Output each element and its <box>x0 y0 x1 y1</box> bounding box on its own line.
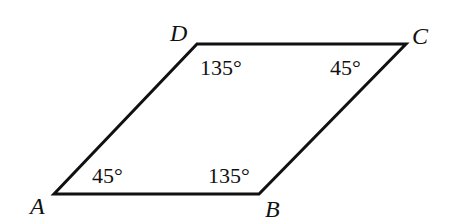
parallelogram-diagram: A B C D 45° 135° 45° 135° <box>0 0 450 224</box>
angle-label-b: 135° <box>208 163 250 188</box>
vertex-label-a: A <box>28 193 45 219</box>
angle-label-c: 45° <box>330 55 361 80</box>
angle-label-a: 45° <box>92 163 123 188</box>
vertex-label-d: D <box>169 20 187 46</box>
angle-label-d: 135° <box>200 55 242 80</box>
vertex-label-c: C <box>412 23 429 49</box>
vertex-label-b: B <box>265 196 280 222</box>
